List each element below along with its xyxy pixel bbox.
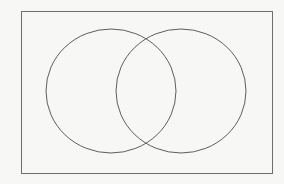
right-set-circle [116, 29, 246, 153]
universal-set-rectangle [22, 12, 273, 174]
venn-diagram [0, 0, 284, 184]
left-set-circle [46, 29, 176, 153]
